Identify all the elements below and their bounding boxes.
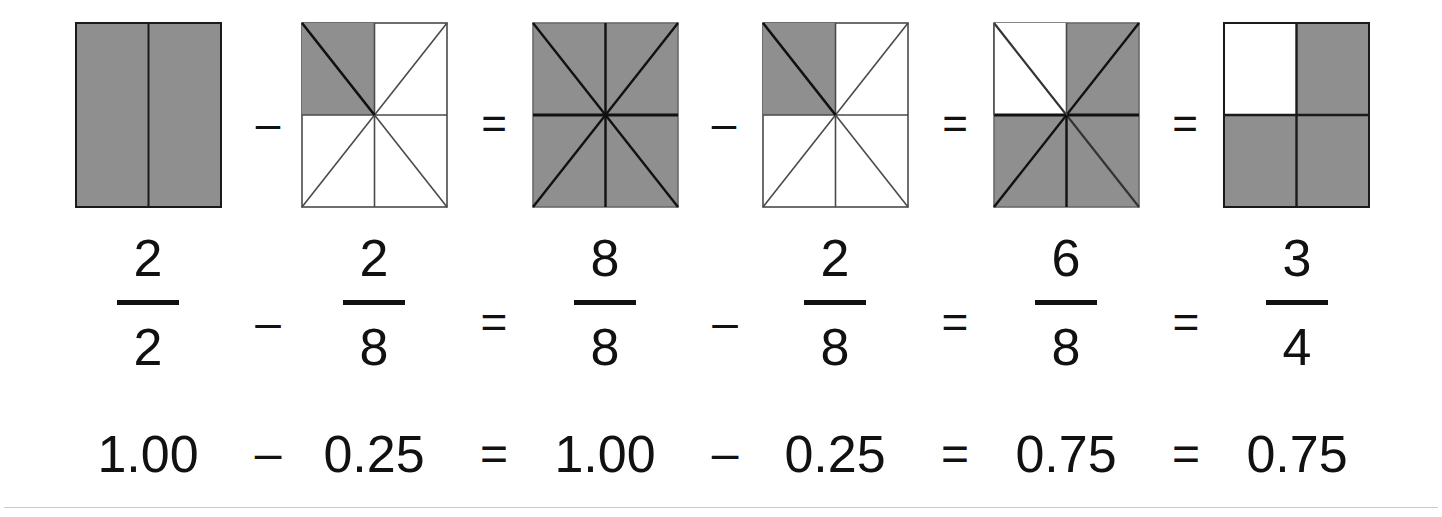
decimal-row: 1.00 – 0.25 = 1.00 – 0.25 = 0.75 = 0.75 <box>0 424 1442 486</box>
fraction-1-denominator: 2 <box>88 317 208 377</box>
fraction-operator-minus-2: – <box>697 300 753 344</box>
decimal-6: 0.75 <box>1222 424 1372 484</box>
diagram-slot-4 <box>762 22 909 208</box>
square-6 <box>1223 22 1370 208</box>
fraction-5-numerator: 6 <box>1006 228 1126 288</box>
diagram-slot-5 <box>993 22 1140 208</box>
diagram-operator-minus-1: – <box>244 102 292 146</box>
decimal-1: 1.00 <box>73 424 223 484</box>
fraction-5: 6 8 <box>1006 228 1126 377</box>
diagram-slot-3 <box>532 22 679 208</box>
square-2 <box>301 22 448 208</box>
fraction-5-denominator: 8 <box>1006 317 1126 377</box>
fraction-4-bar <box>804 300 866 305</box>
decimal-operator-minus-1: – <box>240 424 296 484</box>
fraction-4: 2 8 <box>775 228 895 377</box>
worksheet-canvas: – = <box>0 0 1442 517</box>
fraction-4-denominator: 8 <box>775 317 895 377</box>
bottom-divider <box>4 507 1438 508</box>
fraction-3: 8 8 <box>545 228 665 377</box>
diagram-slot-2 <box>301 22 448 208</box>
fraction-operator-minus-1: – <box>240 300 296 344</box>
square-3 <box>532 22 679 208</box>
decimal-operator-equals-1: = <box>466 424 522 484</box>
fraction-operator-equals-1: = <box>466 300 522 344</box>
diagram-slot-6 <box>1223 22 1370 208</box>
fraction-2: 2 8 <box>314 228 434 377</box>
decimal-operator-minus-2: – <box>697 424 753 484</box>
diagram-operator-equals-2: = <box>931 102 979 146</box>
fraction-2-denominator: 8 <box>314 317 434 377</box>
fraction-6: 3 4 <box>1237 228 1357 377</box>
fraction-2-bar <box>343 300 405 305</box>
fraction-6-bar <box>1266 300 1328 305</box>
fraction-1: 2 2 <box>88 228 208 377</box>
diagram-row: – = <box>0 22 1442 208</box>
square-4 <box>762 22 909 208</box>
fraction-row: 2 2 – 2 8 = 8 8 – 2 8 = 6 8 = <box>0 228 1442 403</box>
decimal-2: 0.25 <box>299 424 449 484</box>
fraction-3-denominator: 8 <box>545 317 665 377</box>
fraction-6-numerator: 3 <box>1237 228 1357 288</box>
diagram-operator-equals-3: = <box>1161 102 1209 146</box>
diagram-slot-1 <box>75 22 222 208</box>
fraction-4-numerator: 2 <box>775 228 895 288</box>
fraction-3-bar <box>574 300 636 305</box>
decimal-operator-equals-3: = <box>1158 424 1214 484</box>
decimal-5: 0.75 <box>991 424 1141 484</box>
diagram-operator-minus-2: – <box>700 102 748 146</box>
fraction-operator-equals-3: = <box>1158 300 1214 344</box>
decimal-4: 0.25 <box>760 424 910 484</box>
fraction-6-denominator: 4 <box>1237 317 1357 377</box>
fraction-1-numerator: 2 <box>88 228 208 288</box>
decimal-operator-equals-2: = <box>927 424 983 484</box>
square-5 <box>993 22 1140 208</box>
fraction-operator-equals-2: = <box>927 300 983 344</box>
diagram-operator-equals-1: = <box>470 102 518 146</box>
fraction-3-numerator: 8 <box>545 228 665 288</box>
square-1 <box>75 22 222 208</box>
fraction-1-bar <box>117 300 179 305</box>
fraction-2-numerator: 2 <box>314 228 434 288</box>
decimal-3: 1.00 <box>530 424 680 484</box>
fraction-5-bar <box>1035 300 1097 305</box>
